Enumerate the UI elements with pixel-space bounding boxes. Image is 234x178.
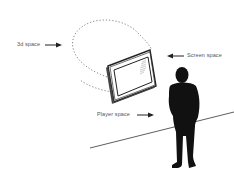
label-screen-space: Screen space xyxy=(187,53,222,59)
arrow-player-space xyxy=(137,113,154,118)
player-silhouette xyxy=(169,67,200,168)
diagram-canvas: 3d space Screen space Player space xyxy=(0,0,234,178)
label-3d-space: 3d space xyxy=(17,42,40,48)
label-player-space: Player space xyxy=(97,112,130,118)
arrow-3d-space xyxy=(45,43,62,48)
arrow-screen-space xyxy=(167,54,184,59)
screen-monitor xyxy=(106,50,156,104)
